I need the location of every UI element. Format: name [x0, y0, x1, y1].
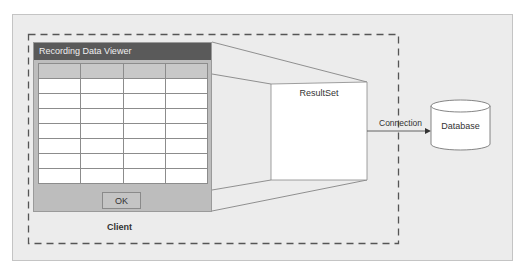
grid-cell[interactable]	[165, 124, 207, 139]
grid-cell[interactable]	[123, 124, 165, 139]
table-row	[39, 79, 208, 94]
resultset-label: ResultSet	[271, 88, 367, 98]
grid-cell[interactable]	[39, 124, 81, 139]
grid-cell[interactable]	[123, 154, 165, 169]
column-header[interactable]	[123, 64, 165, 79]
table-row	[39, 124, 208, 139]
table-row	[39, 109, 208, 124]
projection-line-top-outer	[212, 42, 367, 82]
recording-data-viewer-window: Recording Data Viewer OK	[33, 42, 212, 212]
grid-cell[interactable]	[81, 154, 123, 169]
grid-cell[interactable]	[165, 94, 207, 109]
grid-cell[interactable]	[39, 109, 81, 124]
column-header[interactable]	[81, 64, 123, 79]
grid-cell[interactable]	[165, 139, 207, 154]
grid-cell[interactable]	[165, 169, 207, 184]
grid-cell[interactable]	[39, 139, 81, 154]
table-row	[39, 94, 208, 109]
grid-cell[interactable]	[165, 154, 207, 169]
grid-cell[interactable]	[81, 79, 123, 94]
grid-cell[interactable]	[81, 139, 123, 154]
data-grid	[38, 63, 208, 184]
grid-cell[interactable]	[123, 94, 165, 109]
database-label: Database	[431, 121, 490, 131]
grid-cell[interactable]	[123, 139, 165, 154]
client-label: Client	[107, 222, 132, 232]
grid-header-row	[39, 64, 208, 79]
grid-cell[interactable]	[81, 109, 123, 124]
grid-cell[interactable]	[39, 169, 81, 184]
grid-cell[interactable]	[123, 169, 165, 184]
table-row	[39, 139, 208, 154]
projection-line-bottom-outer	[212, 180, 367, 211]
column-header[interactable]	[165, 64, 207, 79]
grid-cell[interactable]	[39, 94, 81, 109]
grid-cell[interactable]	[165, 79, 207, 94]
column-header[interactable]	[39, 64, 81, 79]
projection-line-bottom-inner	[212, 180, 271, 190]
grid-cell[interactable]	[39, 79, 81, 94]
ok-button[interactable]: OK	[102, 192, 141, 209]
table-row	[39, 169, 208, 184]
grid-cell[interactable]	[165, 109, 207, 124]
grid-cell[interactable]	[81, 169, 123, 184]
projection-line-top-inner	[212, 74, 271, 84]
window-title: Recording Data Viewer	[34, 43, 211, 60]
table-row	[39, 154, 208, 169]
connection-label: Connection	[379, 118, 422, 128]
grid-cell[interactable]	[123, 109, 165, 124]
grid-cell[interactable]	[39, 154, 81, 169]
grid-cell[interactable]	[81, 124, 123, 139]
grid-cell[interactable]	[81, 94, 123, 109]
grid-cell[interactable]	[123, 79, 165, 94]
